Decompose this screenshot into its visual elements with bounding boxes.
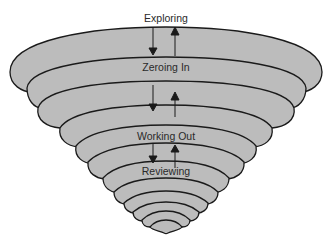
- stage-label-working-out: Working Out: [136, 131, 196, 142]
- stage-label-exploring: Exploring: [144, 13, 188, 24]
- stage-label-zeroing-in: Zeroing In: [142, 62, 189, 73]
- funnel-diagram: [0, 0, 333, 244]
- stage-label-reviewing: Reviewing: [142, 166, 190, 177]
- funnel-layer-12: [150, 220, 182, 234]
